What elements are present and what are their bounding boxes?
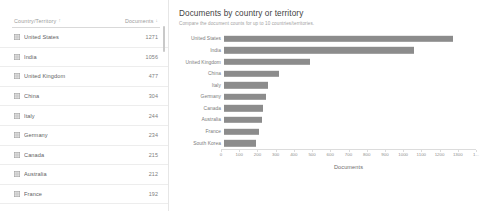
bar-category-label: India [177,48,224,53]
bar-row: Germany [177,91,476,103]
bar-category-label: United States [177,36,224,41]
table-row[interactable]: India1056 [0,48,168,68]
x-axis: 0100200300400500600700800900100011001200… [221,149,476,161]
table-scrollbar[interactable] [163,26,165,206]
bar-row: China [177,68,476,80]
bar[interactable] [224,70,279,76]
bar[interactable] [224,47,414,53]
country-table-rows: United States1271India1056United Kingdom… [0,28,168,204]
bar[interactable] [224,128,259,134]
x-axis-tick-label: 800 [363,152,370,157]
table-cell-country: Italy [24,113,149,119]
bar-track [224,68,476,80]
chart-subtitle: Compare the document counts for up to 10… [179,21,476,26]
documents-by-country-view: Country/Territory ↑ Documents ↓ United S… [0,0,484,211]
x-axis-tick-label: 1100 [417,152,426,157]
bar[interactable] [224,59,310,65]
grid-icon [14,132,20,138]
x-axis-tick-label: 400 [290,152,297,157]
bar-category-label: South Korea [177,141,224,146]
grid-icon [14,171,20,177]
table-row[interactable]: France192 [0,185,168,205]
bar-category-label: Canada [177,106,224,111]
table-row[interactable]: Australia212 [0,165,168,185]
bar-row: United Kingdom [177,56,476,68]
bar[interactable] [224,140,256,146]
x-axis-tick-label: 600 [327,152,334,157]
bar-track [224,56,476,68]
bar-track [224,103,476,115]
bar[interactable] [224,94,266,100]
table-cell-documents: 477 [149,73,158,79]
bar-chart-plot: United StatesIndiaUnited KingdomChinaIta… [177,32,476,170]
table-cell-documents: 192 [149,191,158,197]
table-cell-documents: 1271 [146,34,158,40]
grid-icon [14,93,20,99]
x-axis-tick-label: 1... [473,152,479,157]
table-cell-country: China [24,93,149,99]
x-axis-tick-label: 900 [381,152,388,157]
table-cell-documents: 234 [149,132,158,138]
x-axis-tick-label: 0 [220,152,222,157]
bar-track [224,79,476,91]
table-scrollbar-thumb[interactable] [163,26,165,52]
grid-icon [14,73,20,79]
table-cell-documents: 215 [149,152,158,158]
bar-category-label: China [177,71,224,76]
bar[interactable] [224,105,263,111]
bar-row: South Korea [177,137,476,149]
x-axis-tick-label: 1200 [435,152,445,157]
bar-track [224,91,476,103]
bar-track [224,126,476,138]
table-row[interactable]: Italy244 [0,106,168,126]
x-axis-tick-label: 500 [308,152,315,157]
grid-icon [14,113,20,119]
column-header-country-label: Country/Territory [14,18,56,24]
table-header-row: Country/Territory ↑ Documents ↓ [0,0,168,24]
table-cell-country: Australia [24,171,149,177]
table-cell-country: United States [24,34,146,40]
chart-title: Documents by country or territory [179,9,476,18]
table-row[interactable]: Germany234 [0,126,168,146]
bar-track [224,114,476,126]
x-axis-tick-label: 200 [254,152,261,157]
x-axis-tick-label: 1000 [398,152,408,157]
bar-track [224,45,476,57]
x-axis-title: Documents [221,164,476,170]
bar-track [224,137,476,149]
table-row[interactable]: United States1271 [0,28,168,48]
bar-row: France [177,126,476,138]
table-row[interactable]: Canada215 [0,146,168,166]
bar-category-label: France [177,129,224,134]
table-cell-documents: 212 [149,171,158,177]
table-cell-country: India [24,54,146,60]
sort-ascending-icon: ↑ [58,19,60,24]
table-cell-country: Germany [24,132,149,138]
table-cell-documents: 244 [149,113,158,119]
bar-row: United States [177,33,476,45]
table-cell-documents: 304 [149,93,158,99]
column-header-country[interactable]: Country/Territory ↑ [14,18,125,24]
table-row[interactable]: China304 [0,87,168,107]
bar-track [224,33,476,45]
bar[interactable] [224,82,268,88]
bar[interactable] [224,117,262,123]
bar-rows: United StatesIndiaUnited KingdomChinaIta… [177,32,476,149]
column-header-documents[interactable]: Documents ↓ [125,18,158,24]
table-cell-country: United Kingdom [24,73,149,79]
bar-category-label: Germany [177,94,224,99]
bar-category-label: Italy [177,83,224,88]
x-axis-tick-label: 700 [345,152,352,157]
column-header-documents-label: Documents [125,18,154,24]
bar-category-label: United Kingdom [177,60,224,65]
table-cell-documents: 1056 [146,54,158,60]
bar-row: Canada [177,103,476,115]
grid-icon [14,34,20,40]
table-row[interactable]: United Kingdom477 [0,67,168,87]
x-axis-tick-label: 1300 [453,152,463,157]
country-table-panel: Country/Territory ↑ Documents ↓ United S… [0,0,168,211]
sort-descending-icon: ↓ [156,19,158,24]
bar[interactable] [224,36,453,42]
grid-icon [14,54,20,60]
x-axis-tick-label: 100 [236,152,243,157]
